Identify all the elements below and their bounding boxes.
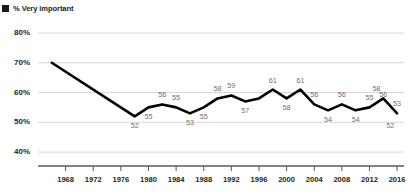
data-point-label: 57	[241, 107, 249, 114]
data-point-label: 56	[379, 91, 387, 98]
y-axis-label: 80%	[14, 29, 30, 37]
x-axis-label: 1984	[168, 176, 185, 184]
x-axis-label: 2016	[389, 176, 406, 184]
y-axis-label: 40%	[14, 148, 30, 156]
y-axis-label: 70%	[14, 59, 30, 67]
x-axis-label: 1976	[112, 176, 129, 184]
chart-container: % Very important 40%50%60%70%80% 1968197…	[0, 0, 408, 195]
data-point-label: 55	[144, 113, 152, 120]
data-point-label: 53	[393, 100, 401, 107]
x-axis-label: 2008	[333, 176, 350, 184]
data-point-label: 56	[158, 91, 166, 98]
x-axis-label: 1992	[223, 176, 240, 184]
x-axis-label: 2000	[278, 176, 295, 184]
data-point-label: 58	[283, 104, 291, 111]
y-axis-label: 60%	[14, 89, 30, 97]
data-point-label: 56	[310, 91, 318, 98]
chart-svg	[0, 0, 408, 195]
data-point-label: 55	[365, 94, 373, 101]
x-axis-label: 2012	[361, 176, 378, 184]
data-point-label: 55	[172, 94, 180, 101]
x-axis-label: 1996	[251, 176, 268, 184]
data-point-label: 59	[227, 82, 235, 89]
data-point-label: 54	[324, 116, 332, 123]
data-point-label: 58	[214, 85, 222, 92]
data-point-label: 53	[186, 119, 194, 126]
data-point-label: 61	[269, 77, 277, 84]
data-point-label: 56	[338, 91, 346, 98]
data-point-label: 55	[200, 113, 208, 120]
x-axis-label: 2004	[306, 176, 323, 184]
data-point-label: 54	[352, 116, 360, 123]
x-axis-label: 1980	[140, 176, 157, 184]
data-point-label: 52	[131, 122, 139, 129]
y-axis-label: 50%	[14, 118, 30, 126]
data-point-label: 61	[296, 77, 304, 84]
x-axis-label: 1968	[57, 176, 74, 184]
x-axis-ticks	[66, 166, 397, 171]
data-point-label: 52	[386, 122, 394, 129]
x-axis-label: 1972	[85, 176, 102, 184]
plot-area: 40%50%60%70%80% 196819721976198019841988…	[0, 0, 408, 195]
x-axis-label: 1988	[195, 176, 212, 184]
